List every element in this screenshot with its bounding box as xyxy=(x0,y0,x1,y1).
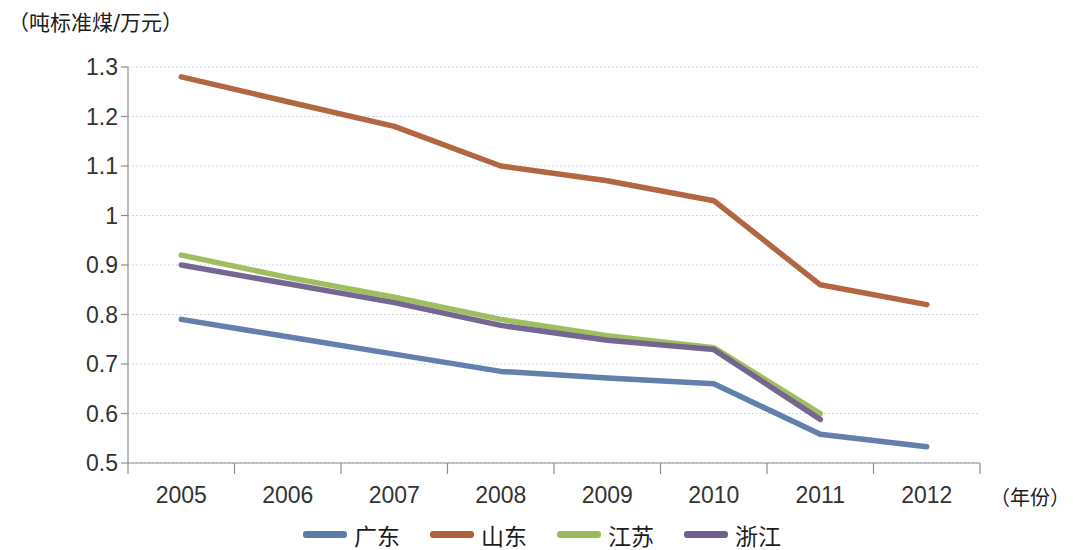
chart-legend: 广东山东江苏浙江 xyxy=(0,519,1084,550)
legend-item[interactable]: 山东 xyxy=(430,518,527,550)
legend-item[interactable]: 浙江 xyxy=(684,518,781,550)
legend-label: 浙江 xyxy=(735,518,781,550)
y-axis-tick-label: 1 xyxy=(52,202,118,229)
y-axis-tick-label: 0.6 xyxy=(52,400,118,427)
y-axis-tick-label: 1.3 xyxy=(52,54,118,81)
x-axis-tick-label: 2012 xyxy=(901,482,952,509)
legend-label: 广东 xyxy=(354,518,400,550)
x-axis-tick-label: 2011 xyxy=(796,482,845,509)
x-axis-tick-label: 2010 xyxy=(688,482,739,509)
x-axis-unit-label: （年份） xyxy=(990,482,1070,511)
line-chart: （吨标准煤/万元） 1.31.21.110.90.80.70.60.5 2005… xyxy=(0,0,1084,550)
y-axis-tick-label: 1.1 xyxy=(52,153,118,180)
y-axis-tick-label: 1.2 xyxy=(52,103,118,130)
chart-plot-area xyxy=(0,0,1084,550)
y-axis-tick-label: 0.5 xyxy=(52,450,118,477)
legend-item[interactable]: 江苏 xyxy=(557,518,654,550)
y-axis-tick-label: 0.9 xyxy=(52,252,118,279)
series-line-浙江 xyxy=(181,265,820,419)
y-axis-tick-label: 0.7 xyxy=(52,351,118,378)
y-axis-tick-labels: 1.31.21.110.90.80.70.60.5 xyxy=(48,0,118,550)
x-axis-tick-label: 2008 xyxy=(475,482,526,509)
legend-swatch-icon xyxy=(303,531,347,538)
legend-swatch-icon xyxy=(684,531,728,538)
x-axis-tick-label: 2009 xyxy=(582,482,633,509)
legend-label: 山东 xyxy=(481,518,527,550)
y-axis-tick-label: 0.8 xyxy=(52,301,118,328)
legend-swatch-icon xyxy=(430,531,474,538)
series-line-广东 xyxy=(181,319,927,446)
x-axis-tick-label: 2006 xyxy=(262,482,313,509)
x-axis-tick-label: 2005 xyxy=(156,482,207,509)
series-line-山东 xyxy=(181,77,927,305)
legend-swatch-icon xyxy=(557,531,601,538)
legend-item[interactable]: 广东 xyxy=(303,518,400,550)
x-axis-tick-label: 2007 xyxy=(369,482,420,509)
legend-label: 江苏 xyxy=(608,518,654,550)
